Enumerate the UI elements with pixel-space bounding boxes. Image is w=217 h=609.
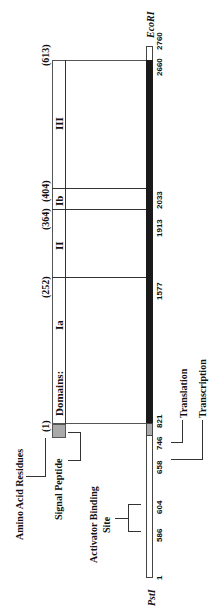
eco-label: EcoRI	[145, 11, 156, 38]
domain-inner-line	[65, 60, 66, 424]
transcription-arrow-v	[202, 420, 203, 460]
residue-404: (404)	[40, 180, 51, 202]
signal-arrow-v	[80, 432, 81, 461]
transcription-label: Transcription	[197, 359, 208, 418]
pos-1913: 1913	[155, 219, 164, 237]
pos-821: 821	[155, 415, 164, 428]
domain-Ib: Ib	[53, 196, 65, 206]
activator-label-1: Activator Binding	[88, 486, 99, 563]
divider-252	[52, 277, 147, 278]
pos-1577: 1577	[155, 282, 164, 300]
pos-746: 746	[155, 437, 164, 450]
divider-364	[52, 209, 147, 210]
pos-586: 586	[155, 529, 164, 542]
residue-252: (252)	[40, 276, 51, 298]
translation-arrow-h	[171, 442, 183, 443]
signal-arrow-h2	[68, 460, 80, 461]
amino-acid-title: Amino Acid Residues	[14, 449, 25, 540]
pos-2660: 2660	[155, 58, 164, 76]
pos-604: 604	[155, 501, 164, 514]
signal-peptide-label: Signal Peptide	[53, 459, 64, 520]
residue-1: (1)	[40, 420, 51, 432]
transcription-arrow-h	[171, 459, 203, 460]
signal-arrow-h1	[68, 432, 80, 433]
domains-label: Domains:	[53, 371, 65, 416]
domain-Ia: Ia	[53, 320, 65, 330]
pos-2033: 2033	[155, 191, 164, 209]
residue-364: (364)	[40, 208, 51, 230]
signal-peptide-box	[52, 424, 66, 438]
amino-arrow-h	[26, 476, 46, 477]
utr-region	[146, 423, 153, 436]
activator-bracket-t	[128, 504, 141, 505]
activator-label-2: Site	[101, 517, 112, 533]
pst-label: PstI	[146, 589, 157, 606]
amino-arrow-v	[45, 438, 46, 476]
coding-region	[146, 60, 153, 423]
activator-bracket-stem	[115, 518, 128, 519]
pos-2760: 2760	[155, 32, 164, 50]
residue-613: (613)	[40, 44, 51, 66]
protein-box	[52, 60, 147, 424]
activator-bracket-v	[128, 504, 129, 532]
pos-1: 1	[155, 576, 164, 580]
domain-III: III	[53, 117, 65, 130]
translation-label: Translation	[178, 369, 189, 418]
domain-II: II	[53, 241, 65, 250]
activator-bracket-b	[128, 531, 141, 532]
divider-404	[52, 188, 147, 189]
translation-arrow-v	[182, 420, 183, 442]
pos-658: 658	[155, 461, 164, 474]
